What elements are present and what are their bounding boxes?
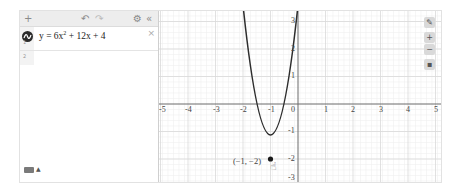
x-tick: -4 xyxy=(185,105,192,114)
y-tick: 3 xyxy=(291,16,295,25)
x-tick: -2 xyxy=(240,105,247,114)
graph-canvas[interactable]: -5 -4 -3 -2 -1 0 1 2 3 4 5 3 2 1 -1 -2 -… xyxy=(159,11,441,182)
zoom-out-button[interactable]: − xyxy=(424,44,435,55)
expression-input[interactable]: y = 6x2 + 12x + 4 xyxy=(39,30,106,41)
x-tick: -1 xyxy=(268,105,275,114)
add-expression-icon[interactable]: + xyxy=(24,12,32,26)
expression-toolbar: + ↶ ↷ ⚙ « xyxy=(20,11,158,27)
wrench-icon: ✎ xyxy=(426,18,433,27)
expression-rhs: + 12x + 4 xyxy=(66,31,105,41)
home-icon: ▪ xyxy=(427,60,432,69)
expression-gutter: 1 xyxy=(20,27,34,50)
new-expression-index: 2 xyxy=(23,53,26,59)
x-tick: -5 xyxy=(159,105,166,114)
expression-panel: + ↶ ↷ ⚙ « 1 y = 6x2 + 12x + 4 × 2 ▲ xyxy=(20,11,159,182)
x-tick: 1 xyxy=(324,105,328,114)
graphing-calculator: + ↶ ↷ ⚙ « 1 y = 6x2 + 12x + 4 × 2 ▲ xyxy=(19,10,442,183)
plus-icon: + xyxy=(426,33,433,42)
settings-icon[interactable]: ⚙ xyxy=(133,12,142,26)
undo-icon[interactable]: ↶ xyxy=(81,12,89,26)
y-tick: -3 xyxy=(288,173,295,182)
x-tick: -3 xyxy=(213,105,220,114)
minus-icon: − xyxy=(426,45,433,54)
x-tick: 2 xyxy=(351,105,355,114)
graph-settings-button[interactable]: ✎ xyxy=(424,17,435,28)
expression-lhs: y = 6x xyxy=(39,31,63,41)
graph-grid xyxy=(159,11,441,182)
expression-index: 1 xyxy=(23,39,26,45)
y-tick: 2 xyxy=(291,44,295,53)
new-expression-gutter[interactable]: 2 xyxy=(20,51,34,65)
x-tick: 5 xyxy=(434,105,438,114)
redo-icon[interactable]: ↷ xyxy=(95,12,103,26)
expression-item[interactable]: 1 y = 6x2 + 12x + 4 × xyxy=(20,27,158,51)
hand-cursor-icon: ☝ xyxy=(270,160,277,173)
caret-up-icon: ▲ xyxy=(36,165,41,172)
y-tick: -1 xyxy=(288,126,295,135)
vertex-label: (−1, −2) xyxy=(233,156,261,166)
default-viewport-button[interactable]: ▪ xyxy=(424,59,435,70)
delete-expression-icon[interactable]: × xyxy=(147,28,155,38)
keyboard-toggle-button[interactable]: ▲ xyxy=(24,166,44,175)
x-tick: 3 xyxy=(379,105,383,114)
y-tick: -2 xyxy=(288,154,295,163)
zoom-in-button[interactable]: + xyxy=(424,32,435,43)
x-tick: 4 xyxy=(406,105,410,114)
x-tick: 0 xyxy=(291,105,295,114)
y-tick: 1 xyxy=(291,71,295,80)
collapse-panel-icon[interactable]: « xyxy=(146,12,152,26)
keyboard-icon xyxy=(24,167,34,173)
